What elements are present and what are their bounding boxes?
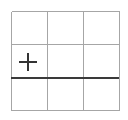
figure-canvas bbox=[0, 0, 128, 120]
grid-figure bbox=[0, 0, 128, 120]
figure-background bbox=[0, 0, 128, 120]
